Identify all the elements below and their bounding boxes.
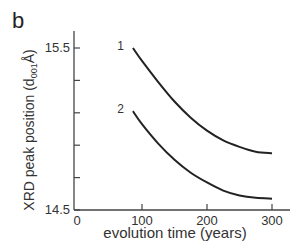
line-chart: 14.515.50100200300 12 — [0, 0, 298, 248]
series-1-label: 1 — [117, 39, 124, 53]
y-label-subscript: 001 — [29, 63, 39, 78]
series-2-label: 2 — [117, 102, 124, 116]
y-axis-label: XRD peak position (d001Å) — [21, 49, 40, 210]
y-label-prefix: XRD peak position (d — [21, 78, 37, 210]
y-tick-label: 14.5 — [45, 202, 70, 217]
x-axis-label: evolution time (years) — [103, 224, 246, 241]
series-2-line — [133, 111, 272, 198]
x-tick-label: 300 — [261, 213, 283, 228]
y-tick-label: 15.5 — [45, 40, 70, 55]
series-lines: 12 — [117, 39, 272, 199]
y-label-suffix: Å) — [21, 49, 37, 63]
x-tick-label: 0 — [73, 213, 80, 228]
